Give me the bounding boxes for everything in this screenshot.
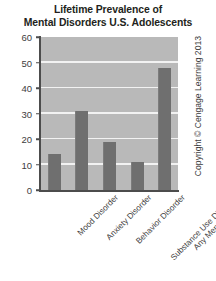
x-axis-labels: Mood DisorderAnxiety DisorderBehavior Di… (40, 193, 185, 281)
y-axis-ticks: 0102030405060 (0, 37, 36, 190)
bar: 19 (103, 142, 116, 190)
y-axis-tick-label: 40 (21, 83, 32, 94)
chart-title-line-2: Mental Disorders U.S. Adolescents (0, 16, 216, 29)
y-axis-tick-mark (36, 36, 39, 38)
chart-title: Lifetime Prevalence of Mental Disorders … (0, 3, 216, 29)
y-axis-tick-label: 0 (27, 185, 32, 196)
y-axis-tick-label: 60 (21, 32, 32, 43)
y-axis-tick-mark (36, 62, 39, 64)
y-axis-line (39, 36, 41, 191)
y-axis-tick-label: 10 (21, 159, 32, 170)
copyright-notice: Copyright © Cengage Learning 2013 (186, 36, 200, 206)
y-axis-tick-label: 30 (21, 108, 32, 119)
y-axis-tick-label: 50 (21, 57, 32, 68)
y-axis-tick-mark (36, 189, 39, 191)
bar-series: 1431191148 (40, 37, 178, 190)
y-axis-tick-mark (36, 87, 39, 89)
bar: 48 (158, 68, 171, 190)
plot-area: 1431191148 (40, 37, 178, 190)
y-axis-tick-mark (36, 138, 39, 140)
y-axis-tick-mark (36, 164, 39, 166)
chart-title-line-1: Lifetime Prevalence of (0, 3, 216, 16)
y-axis-tick-label: 20 (21, 134, 32, 145)
bar: 11 (131, 162, 144, 190)
bar: 14 (48, 154, 61, 190)
copyright-text: Copyright © Cengage Learning 2013 (193, 36, 203, 176)
chart-figure: Lifetime Prevalence of Mental Disorders … (0, 0, 216, 281)
x-axis-line (39, 190, 179, 192)
bar: 31 (75, 111, 88, 190)
y-axis-tick-mark (36, 113, 39, 115)
